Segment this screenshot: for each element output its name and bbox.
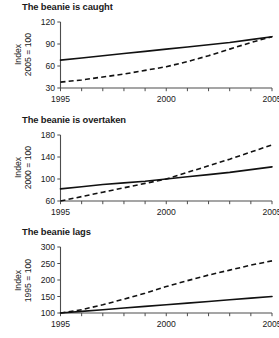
- y-tick-label: 250: [41, 259, 56, 269]
- chart-plot-area: 100150200250300199520002005: [0, 225, 279, 338]
- y-tick-label: 150: [41, 292, 56, 302]
- x-tick-label: 1995: [51, 319, 70, 329]
- y-tick-label: 30: [45, 83, 55, 93]
- series-line-solid-line: [61, 166, 273, 188]
- chart-plot-area: 60100140180199520002005: [0, 113, 279, 226]
- y-tick-label: 90: [45, 39, 55, 49]
- x-tick-label: 2005: [262, 94, 279, 104]
- figure-page: { "figure": { "background_color": "#ffff…: [0, 0, 279, 338]
- x-tick-label: 2000: [157, 206, 176, 216]
- y-tick-label: 180: [41, 130, 56, 140]
- x-tick-label: 2005: [262, 319, 279, 329]
- y-tick-label: 60: [45, 61, 55, 71]
- y-tick-label: 100: [41, 308, 56, 318]
- x-tick-label: 1995: [51, 94, 70, 104]
- series-line-dashed-line: [61, 144, 273, 200]
- y-tick-label: 60: [45, 196, 55, 206]
- series-line-dashed-line: [61, 37, 273, 82]
- chart-panel-beanie-is-caught: The beanie is caught Index 2005 = 100 30…: [0, 0, 279, 113]
- y-tick-label: 140: [41, 152, 56, 162]
- chart-plot-area: 306090120199520002005: [0, 0, 279, 113]
- x-tick-label: 2005: [262, 206, 279, 216]
- y-tick-label: 120: [41, 17, 56, 27]
- chart-panel-beanie-lags: The beanie lags Index 1995 = 100 1001502…: [0, 225, 279, 338]
- y-tick-label: 100: [41, 174, 56, 184]
- x-tick-label: 1995: [51, 206, 70, 216]
- series-line-solid-line: [61, 37, 273, 60]
- y-tick-label: 300: [41, 242, 56, 252]
- series-line-solid-line: [61, 297, 273, 314]
- chart-panel-beanie-is-overtaken: The beanie is overtaken Index 2000 = 100…: [0, 113, 279, 226]
- y-tick-label: 200: [41, 275, 56, 285]
- x-tick-label: 2000: [157, 94, 176, 104]
- x-tick-label: 2000: [157, 319, 176, 329]
